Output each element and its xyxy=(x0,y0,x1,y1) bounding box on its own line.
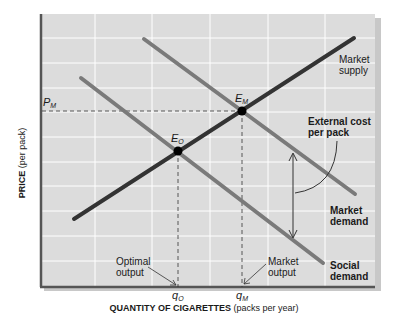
social-demand-label: Social demand xyxy=(330,260,368,282)
x-axis-label: QUANTITY OF CIGARETTES (packs per year) xyxy=(0,303,408,313)
market-output-label: Market output xyxy=(268,256,299,278)
qo-sub: O xyxy=(178,295,183,302)
qm-tick-label: qM xyxy=(236,290,248,304)
y-axis-label-bold: PRICE xyxy=(17,171,27,199)
optimal-output-label: Optimal output xyxy=(116,256,150,278)
qm-sub: M xyxy=(242,295,248,302)
market-demand-label-line2: demand xyxy=(330,216,368,227)
market-demand-label-line1: Market xyxy=(330,205,368,216)
pm-label: PM xyxy=(43,97,56,111)
external-cost-label-line1: External cost xyxy=(308,116,371,127)
social-demand-label-line1: Social xyxy=(330,260,368,271)
market-supply-label-line2: supply xyxy=(339,65,370,76)
em-point xyxy=(238,107,247,116)
social-demand-label-line2: demand xyxy=(330,271,368,282)
y-axis-label-rest: (per pack) xyxy=(17,128,27,171)
em-sub: M xyxy=(242,98,248,105)
chart: Market supply External cost per pack Mar… xyxy=(0,0,408,331)
pm-sub: M xyxy=(50,102,56,109)
x-axis-label-rest: (packs per year) xyxy=(231,303,299,313)
market-output-label-line1: Market xyxy=(268,256,299,267)
market-demand-label: Market demand xyxy=(330,205,368,227)
qo-tick-label: qO xyxy=(172,290,184,304)
eo-label: EO xyxy=(171,133,184,147)
external-cost-label-line2: per pack xyxy=(308,127,371,138)
y-axis-label: PRICE (per pack) xyxy=(17,103,27,223)
optimal-output-label-line1: Optimal xyxy=(116,256,150,267)
x-axis-label-bold: QUANTITY OF CIGARETTES xyxy=(110,303,231,313)
market-supply-label: Market supply xyxy=(339,54,370,76)
optimal-output-label-line2: output xyxy=(116,267,150,278)
em-label: EM xyxy=(235,93,248,107)
eo-sub: O xyxy=(178,138,183,145)
external-cost-label: External cost per pack xyxy=(308,116,371,138)
market-output-label-line2: output xyxy=(268,267,299,278)
market-supply-label-line1: Market xyxy=(339,54,370,65)
eo-point xyxy=(174,147,183,156)
